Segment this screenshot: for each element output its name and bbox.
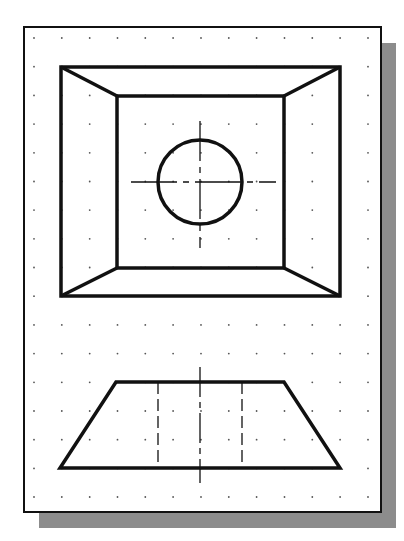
- grid-dot: [33, 410, 35, 412]
- grid-dot: [172, 496, 174, 498]
- grid-dot: [89, 37, 91, 39]
- grid-dot: [61, 324, 63, 326]
- grid-dot: [256, 496, 258, 498]
- grid-dot: [256, 123, 258, 125]
- grid-dot: [311, 324, 313, 326]
- grid-dot: [172, 123, 174, 125]
- grid-dot: [61, 439, 63, 441]
- grid-dot: [311, 181, 313, 183]
- grid-dot: [33, 295, 35, 297]
- grid-dot: [33, 267, 35, 269]
- grid-dot: [228, 123, 230, 125]
- grid-dot: [311, 439, 313, 441]
- grid-dot: [144, 353, 146, 355]
- grid-dot: [33, 468, 35, 470]
- grid-dot: [228, 353, 230, 355]
- grid-dot: [284, 496, 286, 498]
- grid-dot: [311, 267, 313, 269]
- grid-dot: [200, 353, 202, 355]
- grid-dot: [367, 238, 369, 240]
- grid-dot: [89, 267, 91, 269]
- grid-dot: [339, 353, 341, 355]
- grid-dot: [311, 381, 313, 383]
- grid-dot: [33, 181, 35, 183]
- grid-dot: [172, 37, 174, 39]
- grid-dot: [256, 353, 258, 355]
- grid-dot: [89, 209, 91, 211]
- grid-dot: [61, 410, 63, 412]
- grid-dot: [367, 324, 369, 326]
- grid-dot: [311, 37, 313, 39]
- grid-dot: [33, 95, 35, 97]
- grid-dot: [89, 181, 91, 183]
- grid-dot: [284, 439, 286, 441]
- grid-dot: [367, 439, 369, 441]
- grid-dot: [61, 496, 63, 498]
- grid-dot: [200, 324, 202, 326]
- grid-dot: [367, 181, 369, 183]
- grid-dot: [117, 37, 119, 39]
- grid-dot: [367, 496, 369, 498]
- grid-dot: [144, 209, 146, 211]
- grid-dot: [144, 123, 146, 125]
- grid-dot: [89, 123, 91, 125]
- grid-dot: [339, 410, 341, 412]
- grid-dot: [284, 353, 286, 355]
- grid-dot: [256, 37, 258, 39]
- grid-dot: [144, 439, 146, 441]
- grid-dot: [172, 209, 174, 211]
- grid-dot: [89, 95, 91, 97]
- grid-dot: [367, 381, 369, 383]
- grid-dot: [33, 152, 35, 154]
- grid-dot: [144, 238, 146, 240]
- grid-dot: [33, 66, 35, 68]
- grid-dot: [33, 238, 35, 240]
- grid-dot: [311, 353, 313, 355]
- grid-dot: [284, 37, 286, 39]
- grid-dot: [33, 209, 35, 211]
- grid-dot: [311, 238, 313, 240]
- grid-dot: [89, 353, 91, 355]
- grid-dot: [256, 238, 258, 240]
- grid-dot: [33, 324, 35, 326]
- grid-dot: [256, 181, 258, 183]
- grid-dot: [117, 353, 119, 355]
- grid-dot: [311, 496, 313, 498]
- grid-dot: [89, 381, 91, 383]
- grid-dot: [89, 152, 91, 154]
- grid-dot: [256, 324, 258, 326]
- grid-dot: [89, 410, 91, 412]
- grid-dot: [367, 37, 369, 39]
- grid-dot: [61, 37, 63, 39]
- grid-dot: [33, 439, 35, 441]
- grid-dot: [256, 152, 258, 154]
- grid-dot: [61, 353, 63, 355]
- grid-dot: [256, 209, 258, 211]
- grid-dot: [367, 66, 369, 68]
- grid-dot: [200, 410, 202, 412]
- grid-dot: [284, 324, 286, 326]
- grid-dot: [89, 238, 91, 240]
- grid-dot: [367, 152, 369, 154]
- grid-dot: [339, 496, 341, 498]
- grid-dot: [228, 410, 230, 412]
- grid-dot: [172, 238, 174, 240]
- grid-dot: [117, 496, 119, 498]
- grid-dot: [367, 209, 369, 211]
- grid-dot: [200, 37, 202, 39]
- grid-dot: [256, 439, 258, 441]
- grid-dot: [339, 324, 341, 326]
- grid-dot: [367, 410, 369, 412]
- grid-dot: [144, 324, 146, 326]
- grid-dot: [172, 353, 174, 355]
- grid-dot: [311, 209, 313, 211]
- grid-dot: [117, 439, 119, 441]
- grid-dot: [228, 324, 230, 326]
- grid-dot: [367, 123, 369, 125]
- grid-dot: [89, 496, 91, 498]
- grid-dot: [367, 267, 369, 269]
- grid-dot: [339, 439, 341, 441]
- grid-dot: [144, 496, 146, 498]
- grid-dot: [367, 95, 369, 97]
- grid-dot: [117, 324, 119, 326]
